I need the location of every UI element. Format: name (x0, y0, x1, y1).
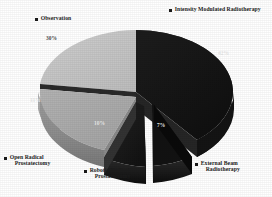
legend-label: External Beam Radiotherapy (201, 160, 240, 172)
legend-label: Intensity Modulated Radiotherapy (175, 6, 261, 12)
legend-item-observation: Observation (35, 15, 71, 21)
square-marker-icon (84, 170, 87, 173)
square-marker-icon (169, 9, 172, 12)
square-marker-icon (195, 163, 198, 166)
legend-label: Observation (41, 15, 72, 21)
legend-label-line2: Prostatectomy (90, 173, 131, 179)
legend-label: Open Radical Prostatectomy (10, 154, 51, 166)
pie-chart: 30% 11% 10% 7% 42% Intensity Modulated R… (0, 0, 272, 197)
legend-label: Robotic Radical Prostatectomy (90, 167, 131, 179)
legend-label-line1: External Beam (201, 160, 238, 166)
legend-label-line2: Radiotherapy (201, 166, 240, 172)
square-marker-icon (4, 157, 7, 160)
legend-item-robotic-radical-prostatectomy: Robotic Radical Prostatectomy (84, 167, 130, 179)
legend-item-intensity-modulated-radiotherapy: Intensity Modulated Radiotherapy (169, 6, 261, 12)
legend-item-open-radical-prostatectomy: Open Radical Prostatectomy (4, 154, 50, 166)
pie-slice-imrt (136, 30, 234, 157)
legend-label-line1: Robotic Radical (90, 167, 130, 173)
square-marker-icon (35, 18, 38, 21)
legend-label-line1: Open Radical (10, 154, 44, 160)
legend-label-line2: Prostatectomy (10, 160, 51, 166)
legend-item-external-beam-radiotherapy: External Beam Radiotherapy (195, 160, 240, 172)
